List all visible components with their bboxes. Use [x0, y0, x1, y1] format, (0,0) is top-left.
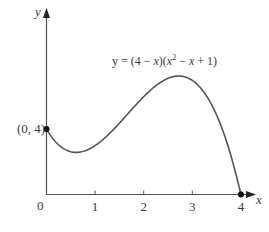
x-axis-arrow-icon — [246, 191, 256, 198]
y-axis-label: y — [33, 4, 41, 19]
point-4-0 — [238, 192, 244, 198]
point-label-0-4: (0, 4) — [17, 121, 45, 136]
function-curve — [47, 76, 241, 194]
x-tick-label: 3 — [189, 199, 196, 214]
x-tick-label: 4 — [238, 199, 245, 214]
y-axis-arrow-icon — [43, 8, 50, 18]
origin-label: 0 — [37, 198, 44, 213]
x-tick-label: 1 — [92, 199, 99, 214]
equation-label: y = (4 − x)(x2 − x + 1) — [112, 53, 217, 68]
x-axis-label: x — [255, 192, 262, 207]
x-tick-label: 2 — [140, 199, 147, 214]
chart-canvas: 1234 y x 0 (0, 4) y = (4 − x)(x2 − x + 1… — [0, 0, 269, 232]
